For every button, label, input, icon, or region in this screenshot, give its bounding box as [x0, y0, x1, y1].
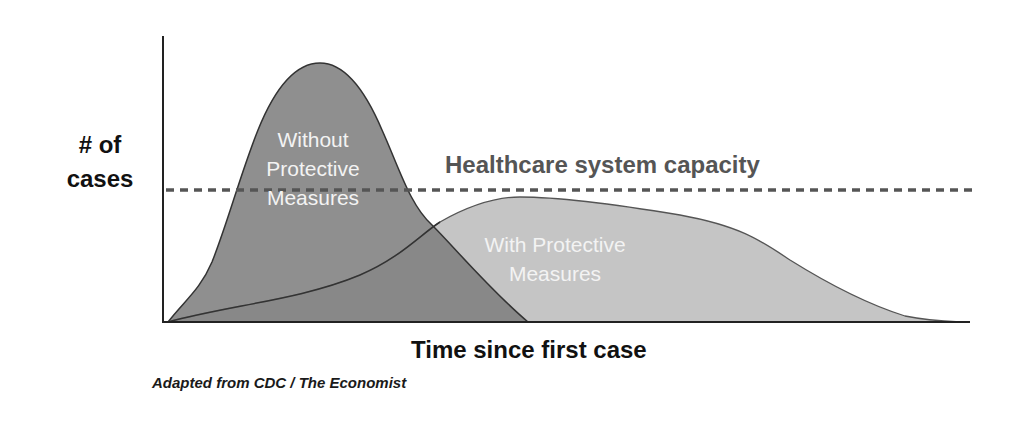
with-label-line-2: Measures — [445, 259, 665, 288]
y-axis-label: # of cases — [40, 128, 160, 196]
without-label-line-1: Without — [228, 125, 398, 154]
without-measures-label: Without Protective Measures — [228, 125, 398, 212]
y-axis-label-line-2: cases — [40, 162, 160, 196]
source-note: Adapted from CDC / The Economist — [152, 374, 406, 391]
y-axis-label-line-1: # of — [40, 128, 160, 162]
capacity-label: Healthcare system capacity — [445, 151, 760, 179]
without-label-line-2: Protective — [228, 154, 398, 183]
with-label-line-1: With Protective — [445, 230, 665, 259]
with-measures-label: With Protective Measures — [445, 230, 665, 288]
x-axis-label: Time since first case — [411, 336, 647, 364]
without-label-line-3: Measures — [228, 183, 398, 212]
